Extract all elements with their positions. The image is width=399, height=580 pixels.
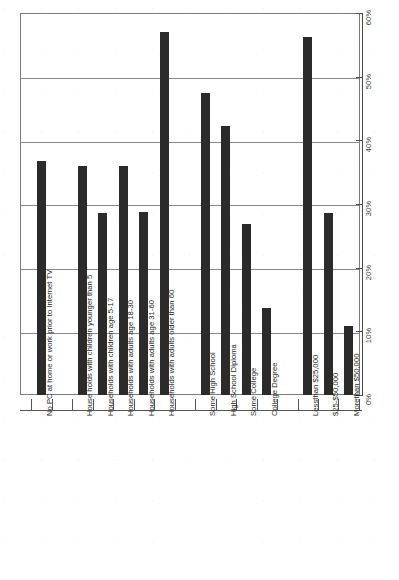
- bar-chart: 0%10%20%30%40%50%60% No PC at home or wo…: [0, 0, 399, 580]
- y-tick-mark: [356, 331, 362, 332]
- y-tick-label: 60%: [364, 10, 373, 25]
- x-axis-label: Households with adults age 18-30: [126, 300, 135, 416]
- y-tick-label: 10%: [364, 328, 373, 343]
- y-tick-label: 0%: [364, 394, 373, 405]
- y-tick-mark: [356, 77, 362, 78]
- y-tick-mark: [356, 268, 362, 269]
- x-axis-label: House holds with children younger than 5: [85, 275, 94, 416]
- bars-layer: [20, 13, 360, 395]
- y-tick-mark: [356, 204, 362, 205]
- x-tick-mark: [298, 399, 299, 410]
- y-tick-label: 50%: [364, 74, 373, 89]
- x-axis-label: High School Diploma: [229, 344, 238, 416]
- x-axis-label: Some College: [249, 368, 258, 416]
- x-tick-mark: [72, 399, 73, 410]
- bar: [324, 213, 333, 395]
- x-axis-label: Lessthan $25,000: [311, 355, 320, 416]
- x-axis-label: Morethan $50,000: [352, 354, 361, 416]
- y-tick-mark: [356, 13, 362, 14]
- x-axis-label: Households with children age 5-17: [106, 298, 115, 416]
- y-tick-label: 30%: [364, 201, 373, 216]
- x-axis-label: Households with adults age 31-60: [147, 300, 156, 416]
- x-axis-label: $25-$50,000: [331, 373, 340, 416]
- x-tick-mark: [31, 399, 32, 410]
- x-tick-mark: [195, 399, 196, 410]
- y-axis: 0%10%20%30%40%50%60%: [360, 0, 399, 410]
- x-axis-label: Households with adults older than 60: [167, 290, 176, 416]
- y-tick-label: 20%: [364, 265, 373, 280]
- bar: [201, 93, 210, 395]
- y-tick-mark: [356, 140, 362, 141]
- x-axis-label: College Degree: [270, 363, 279, 416]
- bar: [303, 37, 312, 395]
- x-axis-label: Some High School: [208, 352, 217, 416]
- y-tick-label: 40%: [364, 137, 373, 152]
- x-axis-label: No PC at home or work prior to Internet …: [45, 270, 54, 416]
